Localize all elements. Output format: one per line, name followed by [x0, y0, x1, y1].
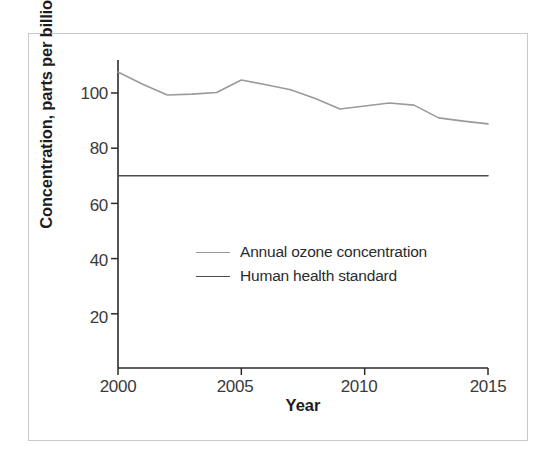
legend-swatch-annual-ozone-concentration [196, 252, 230, 253]
legend-label-human-health-standard: Human health standard [240, 267, 397, 285]
plot-area [0, 0, 556, 475]
series-line-annual-ozone-concentration [118, 72, 488, 124]
ozone-concentration-line-chart: Concentration, parts per billion 100 80 … [0, 0, 556, 475]
y-axis-ticks [111, 93, 118, 314]
data-series-lines [118, 72, 488, 176]
legend-label-annual-ozone-concentration: Annual ozone concentration [240, 243, 427, 261]
x-axis-ticks [118, 368, 488, 375]
legend-swatch-human-health-standard [196, 276, 230, 277]
legend-entry-human-health-standard: Human health standard [196, 267, 397, 285]
legend-entry-annual-ozone-concentration: Annual ozone concentration [196, 243, 427, 261]
